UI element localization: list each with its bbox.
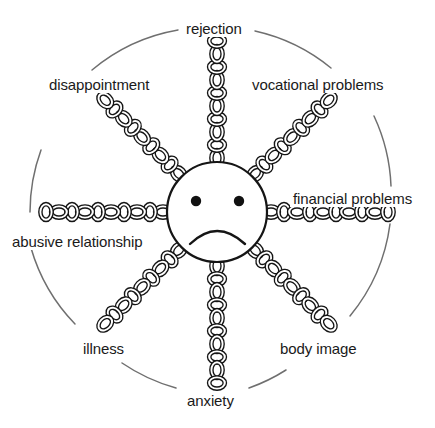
face-outline: [167, 162, 267, 262]
spoke-label-financial-problems: financial problems: [290, 190, 415, 207]
right-eye: [234, 196, 244, 206]
sad-face: [167, 162, 267, 262]
spoke-label-disappointment: disappointment: [46, 76, 152, 93]
chain-body-image: [242, 237, 342, 337]
spoke-label-body-image: body image: [277, 340, 360, 357]
chain-abusive-relationship: [39, 203, 173, 222]
spoke-label-anxiety: anxiety: [184, 392, 237, 409]
chains-diagram-svg: [0, 0, 435, 428]
left-eye: [191, 196, 201, 206]
spoke-label-vocational-problems: vocational problems: [249, 76, 387, 93]
diagram-canvas: rejection vocational problems financial …: [0, 0, 435, 428]
chain-anxiety: [208, 257, 227, 391]
chain-disappointment: [92, 87, 192, 187]
chain-vocational-problems: [242, 87, 342, 187]
spoke-label-illness: illness: [80, 340, 127, 357]
chain-illness: [92, 237, 192, 337]
spoke-label-abusive-relationship: abusive relationship: [9, 233, 146, 250]
chain-rejection: [208, 34, 227, 168]
spoke-label-rejection: rejection: [183, 20, 245, 37]
